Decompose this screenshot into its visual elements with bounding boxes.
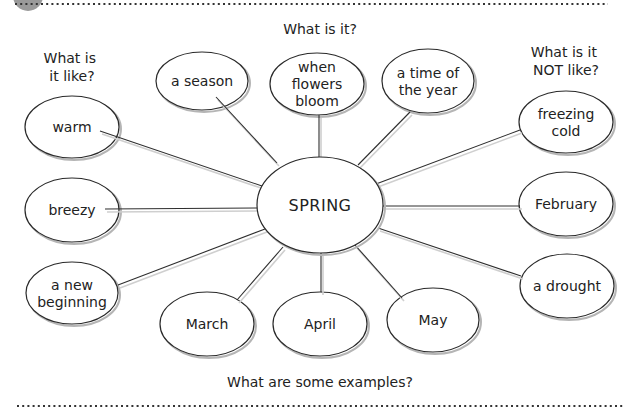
node-label-line: a time of <box>397 65 461 81</box>
question-not-like-line-2: NOT like? <box>533 62 599 78</box>
link-freezing-cold <box>376 130 520 184</box>
node-label-line: the year <box>399 82 458 98</box>
node-label-line: March <box>186 316 229 332</box>
question-what-is-it-like: What is it like? <box>44 50 101 84</box>
node-label-line: when <box>298 59 336 75</box>
node-label-a-season: a season <box>171 73 233 89</box>
node-label-a-time-of-the-year: a time ofthe year <box>397 65 461 98</box>
link-breezy <box>105 208 257 209</box>
center-label: SPRING <box>288 196 351 215</box>
link-march <box>237 247 283 300</box>
node-label-may: May <box>419 312 448 328</box>
link-a-season <box>216 97 277 163</box>
node-label-line: a drought <box>533 278 602 294</box>
node-label-line: breezy <box>48 202 95 218</box>
node-label-warm: warm <box>52 119 91 135</box>
node-label-line: cold <box>551 123 580 139</box>
link-may <box>355 245 402 298</box>
question-what-is-it-like-line-2: it like? <box>49 68 94 84</box>
link-warm <box>100 131 262 186</box>
link-a-drought <box>378 228 521 276</box>
question-what-is-it-not-like: What is it NOT like? <box>531 44 602 78</box>
question-examples: What are some examples? <box>227 374 413 390</box>
node-label-march: March <box>186 316 229 332</box>
node-label-line: a new <box>51 277 93 293</box>
node-label-line: warm <box>52 119 91 135</box>
node-label-line: beginning <box>37 294 107 310</box>
question-not-like-line-1: What is it <box>531 44 598 60</box>
node-label-when-flowers-bloom: whenflowersbloom <box>292 59 343 109</box>
node-label-line: bloom <box>295 93 339 109</box>
node-label-line: May <box>419 312 448 328</box>
node-label-a-drought: a drought <box>533 278 602 294</box>
link-a-new-beginning <box>118 229 265 285</box>
node-label-february: February <box>535 196 597 212</box>
node-label-april: April <box>304 316 336 332</box>
concept-map: What is it? What is it like? What is it … <box>0 0 639 415</box>
node-label-line: February <box>535 196 597 212</box>
node-label-line: a season <box>171 73 233 89</box>
node-label-line: freezing <box>538 106 595 122</box>
header-marker-icon <box>13 0 43 11</box>
question-what-is-it: What is it? <box>283 21 357 37</box>
node-label-line: flowers <box>292 76 343 92</box>
link-a-time-of-the-year <box>358 112 410 165</box>
node-label-breezy: breezy <box>48 202 95 218</box>
question-what-is-it-like-line-1: What is <box>44 50 96 66</box>
center-node: SPRING <box>257 157 385 255</box>
node-label-line: April <box>304 316 336 332</box>
